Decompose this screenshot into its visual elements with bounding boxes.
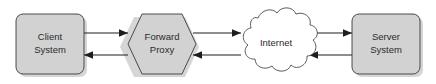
connection-client-to-proxy — [84, 29, 128, 37]
forward-proxy-label-line1: Forward — [145, 31, 180, 42]
client-system-label-line2: System — [34, 44, 66, 55]
connection-proxy-to-client — [84, 51, 128, 59]
node-internet[interactable]: Internet — [243, 8, 317, 71]
connection-proxy-to-internet — [193, 29, 241, 37]
client-system-label-line1: Client — [38, 31, 63, 42]
connection-internet-to-proxy — [193, 51, 241, 59]
node-forward-proxy[interactable]: Forward Proxy — [128, 14, 196, 74]
server-system-label-line1: Server — [372, 31, 400, 42]
arrowhead-right-icon — [232, 29, 241, 37]
forward-proxy-label-line2: Proxy — [150, 44, 175, 55]
node-client-system[interactable]: Client System — [16, 14, 84, 74]
server-system-label-line2: System — [370, 44, 402, 55]
network-flow-diagram: Client System Forward Proxy Internet Ser… — [0, 0, 436, 84]
arrowhead-right-icon — [343, 29, 352, 37]
connection-server-to-internet — [309, 51, 352, 59]
diagram-canvas: Client System Forward Proxy Internet Ser… — [0, 0, 436, 84]
node-server-system[interactable]: Server System — [352, 14, 420, 74]
internet-label: Internet — [260, 37, 293, 48]
